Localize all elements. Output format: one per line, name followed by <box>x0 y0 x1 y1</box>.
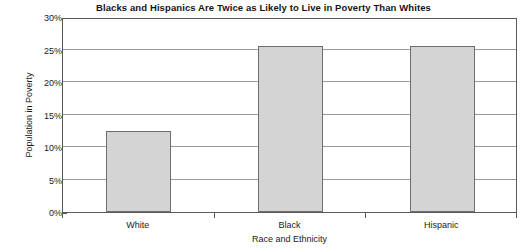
x-axis-tick-mark <box>214 213 215 218</box>
y-axis-tick-label: 0% <box>28 208 62 218</box>
x-axis-label-black: Black <box>278 220 300 230</box>
plot-area <box>62 18 517 213</box>
x-axis-label-group: WhiteBlackHispanic <box>62 220 517 234</box>
x-axis-label-hispanic: Hispanic <box>424 220 459 230</box>
chart-title: Blacks and Hispanics Are Twice as Likely… <box>0 2 527 13</box>
y-axis-tick-label: 20% <box>28 78 62 88</box>
x-axis-tick-mark <box>365 213 366 218</box>
y-axis-tick-label: 15% <box>28 111 62 121</box>
bar-hispanic <box>410 46 475 212</box>
y-axis-tick-group: 0%5%10%15%20%25%30% <box>20 18 62 213</box>
x-axis-title: Race and Ethnicity <box>62 234 517 244</box>
x-axis-tick-mark <box>516 213 517 218</box>
x-axis-tick-mark <box>62 213 63 218</box>
y-axis-tick-label: 5% <box>28 176 62 186</box>
y-axis-tick-label: 10% <box>28 143 62 153</box>
poverty-bar-chart: Blacks and Hispanics Are Twice as Likely… <box>0 0 527 252</box>
x-axis-tick-group <box>62 213 517 219</box>
x-axis-label-white: White <box>126 220 149 230</box>
bar-white <box>106 131 171 212</box>
y-axis-tick-label: 30% <box>28 13 62 23</box>
y-axis-tick-label: 25% <box>28 46 62 56</box>
bar-black <box>258 46 323 212</box>
